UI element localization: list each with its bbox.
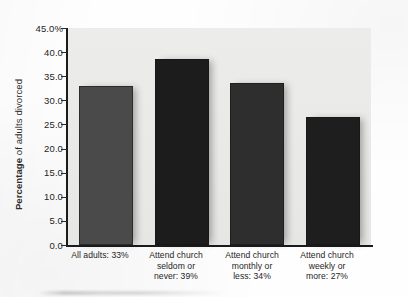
x-axis-category-label-line: never: 39% — [144, 271, 208, 282]
y-axis-tick-labels: 45.0%40.035.030.025.020.015.010.05.00.0 — [24, 23, 63, 247]
y-axis-tick-mark — [61, 197, 67, 198]
y-axis-tick-mark — [61, 28, 67, 29]
y-axis-tick-mark — [61, 52, 67, 53]
x-axis-category-label-line: less: 34% — [220, 271, 284, 282]
y-axis-tick-mark — [61, 76, 67, 77]
plot-area — [68, 28, 371, 245]
x-axis-category-label-line: more: 27% — [295, 271, 359, 282]
y-axis-tick-mark — [61, 245, 67, 246]
x-axis-category-labels: All adults: 33%Attend churchseldom ornev… — [62, 250, 380, 294]
x-axis-category-label: Attend churchmonthly orless: 34% — [220, 250, 284, 282]
y-axis-title-bold-part: Percentage — [14, 157, 25, 209]
y-axis-tick-mark — [61, 173, 67, 174]
x-axis-category-label-line: Attend church — [295, 250, 359, 261]
y-axis-tick-mark — [61, 149, 67, 150]
bar — [79, 86, 133, 245]
bar — [306, 117, 360, 245]
x-axis-category-label-line: seldom or — [144, 261, 208, 272]
x-axis-category-label: Attend churchweekly ormore: 27% — [295, 250, 359, 282]
y-axis-tick-mark — [61, 124, 67, 125]
bar — [230, 83, 284, 245]
x-axis-category-label: All adults: 33% — [68, 250, 132, 261]
x-axis-line — [66, 245, 373, 247]
y-axis-title-rest: of adults divorced — [14, 78, 25, 157]
y-axis-tick-mark — [61, 221, 67, 222]
y-axis-tick-mark — [61, 100, 67, 101]
x-axis-category-label-line: weekly or — [295, 261, 359, 272]
bar — [155, 59, 209, 245]
x-axis-category-label-line: monthly or — [220, 261, 284, 272]
chart-page: Percentage of adults divorced 45.0%40.03… — [0, 0, 408, 297]
x-axis-category-label-line: Attend church — [220, 250, 284, 261]
y-axis-tick-label: 45.0% — [36, 22, 63, 34]
y-axis-tick-text: 45.0% — [36, 23, 63, 34]
x-axis-category-label-line: All adults: 33% — [68, 250, 132, 261]
x-axis-category-label-line: Attend church — [144, 250, 208, 261]
x-axis-category-label: Attend churchseldom ornever: 39% — [144, 250, 208, 282]
